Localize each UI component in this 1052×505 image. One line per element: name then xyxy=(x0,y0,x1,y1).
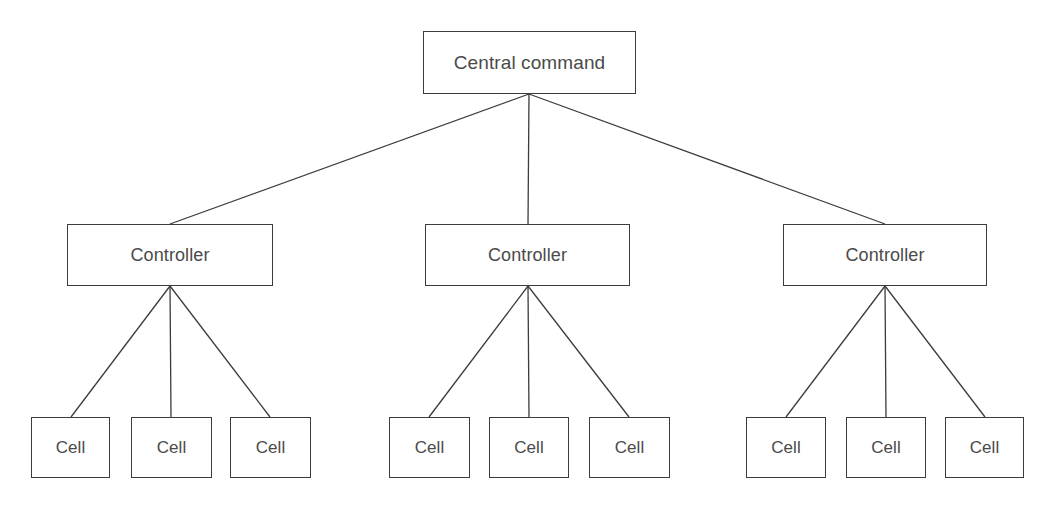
cell-node-4-label: Cell xyxy=(415,439,445,456)
hierarchy-diagram: Central commandControllerControllerContr… xyxy=(0,0,1052,505)
controller-3-to-cell-1 xyxy=(786,286,885,417)
controller-node-2-label: Controller xyxy=(488,246,567,264)
cell-node-3[interactable]: Cell xyxy=(230,417,311,478)
cell-node-9[interactable]: Cell xyxy=(945,417,1024,478)
cell-node-1[interactable]: Cell xyxy=(31,417,110,478)
cell-node-6[interactable]: Cell xyxy=(589,417,670,478)
controller-3-to-cell-3 xyxy=(885,286,985,417)
controller-node-1[interactable]: Controller xyxy=(67,224,273,286)
cell-node-2[interactable]: Cell xyxy=(131,417,212,478)
controller-2-to-cell-3 xyxy=(528,286,629,417)
controller-2-to-cell-1 xyxy=(429,286,528,417)
cell-node-5[interactable]: Cell xyxy=(489,417,569,478)
cell-node-8-label: Cell xyxy=(871,439,901,456)
controller-node-2[interactable]: Controller xyxy=(425,224,630,286)
controller-1-to-cell-2 xyxy=(170,286,171,417)
cell-node-4[interactable]: Cell xyxy=(389,417,470,478)
cell-node-3-label: Cell xyxy=(256,439,286,456)
controller-3-to-cell-2 xyxy=(885,286,886,417)
cell-node-2-label: Cell xyxy=(157,439,187,456)
root-to-controller-3 xyxy=(529,94,885,224)
root-to-controller-1 xyxy=(170,94,529,224)
cell-node-7-label: Cell xyxy=(771,439,801,456)
cell-node-8[interactable]: Cell xyxy=(846,417,926,478)
cell-node-9-label: Cell xyxy=(970,439,1000,456)
controller-1-to-cell-1 xyxy=(71,286,170,417)
controller-2-to-cell-2 xyxy=(528,286,529,417)
cell-node-6-label: Cell xyxy=(615,439,645,456)
controller-1-to-cell-3 xyxy=(170,286,270,417)
cell-node-5-label: Cell xyxy=(514,439,544,456)
central-command-node[interactable]: Central command xyxy=(423,31,636,94)
central-command-node-label: Central command xyxy=(454,53,605,72)
controller-node-1-label: Controller xyxy=(130,246,209,264)
cell-node-7[interactable]: Cell xyxy=(746,417,826,478)
controller-node-3[interactable]: Controller xyxy=(783,224,987,286)
cell-node-1-label: Cell xyxy=(56,439,86,456)
root-to-controller-2 xyxy=(528,94,529,224)
controller-node-3-label: Controller xyxy=(845,246,924,264)
